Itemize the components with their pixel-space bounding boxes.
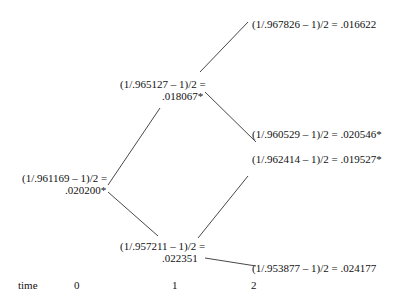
- edge-down-dd: [205, 258, 256, 266]
- edge-root-down: [108, 192, 158, 236]
- edge-up-ud: [205, 92, 256, 142]
- edge-root-up: [108, 108, 160, 185]
- down-node-formula: (1/.957211 – 1)/2 =: [120, 240, 205, 252]
- root-node-formula: (1/.961169 – 1)/2 =: [22, 172, 107, 184]
- uu-node: (1/.967826 – 1)/2 = .016622: [252, 18, 376, 30]
- root-node-value: .020200*: [65, 184, 106, 196]
- du-node: (1/.962414 – 1)/2 = .019527*: [252, 153, 382, 165]
- ud-node: (1/.960529 – 1)/2 = .020546*: [252, 128, 382, 140]
- edge-up-uu: [200, 22, 248, 72]
- time-tick-2: 2: [251, 279, 257, 291]
- up-node-value: .018067*: [162, 90, 203, 102]
- dd-node: (1/.953877 – 1)/2 = .024177: [252, 262, 376, 274]
- time-axis-label: time: [18, 279, 38, 291]
- down-node-value: .022351: [162, 252, 198, 264]
- time-tick-1: 1: [172, 279, 178, 291]
- edge-down-du: [198, 176, 248, 238]
- up-node-formula: (1/.965127 – 1)/2 =: [120, 78, 206, 90]
- time-tick-0: 0: [74, 279, 80, 291]
